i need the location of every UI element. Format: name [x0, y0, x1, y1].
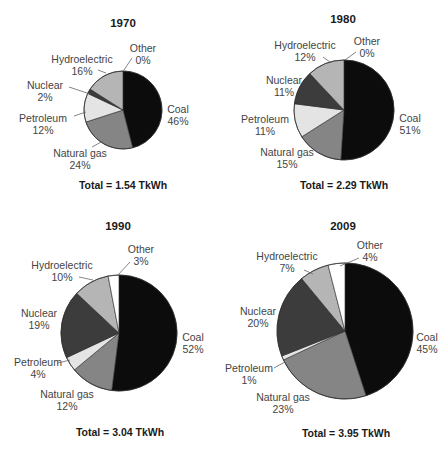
leader-line	[117, 262, 130, 276]
slice-coal	[112, 275, 177, 391]
label-nuclear: Nuclear19%	[21, 307, 58, 331]
label-natural-gas: Natural gas15%	[260, 146, 314, 170]
label-petroleum: Petroleum11%	[241, 113, 289, 137]
label-coal: Coal46%	[167, 103, 189, 127]
slice-coal	[341, 60, 394, 160]
chart-area: 1970 Coal46%Natural gas24%Petroleum12%Nu…	[0, 0, 448, 449]
label-coal: Coal45%	[416, 331, 438, 355]
label-petroleum: Petroleum4%	[14, 356, 62, 380]
pie-slices	[84, 71, 162, 149]
label-coal: Coal51%	[399, 112, 421, 136]
pie-chart-1990: 1990 Coal52%Natural gas12%Petroleum4%Nuc…	[14, 220, 204, 438]
pie-chart-2009: 2009 Coal45%Natural gas23%Petroleum1%Nuc…	[225, 220, 438, 439]
leader-line	[124, 58, 132, 70]
chart-title: 1970	[110, 17, 136, 29]
leader-line	[323, 57, 330, 62]
label-other: Other4%	[357, 239, 384, 263]
label-petroleum: Petroleum1%	[225, 362, 273, 386]
label-hydroelectric: Hydroelectric10%	[31, 259, 92, 283]
pie-charts-grid: 1970 Coal46%Natural gas24%Petroleum12%Nu…	[0, 0, 448, 449]
total-label: Total = 3.95 TkWh	[302, 427, 390, 439]
chart-title: 2009	[330, 220, 356, 232]
label-natural-gas: Natural gas24%	[53, 147, 107, 171]
leader-line	[98, 70, 106, 73]
leader-line	[69, 87, 90, 94]
total-label: Total = 2.29 TkWh	[300, 179, 388, 191]
label-other: Other0%	[130, 42, 157, 66]
label-other: Other0%	[354, 35, 381, 59]
leader-line	[274, 362, 285, 368]
total-label: Total = 1.54 TkWh	[79, 179, 167, 191]
pie-slices	[61, 275, 177, 391]
leader-line	[79, 277, 93, 280]
label-natural-gas: Natural gas23%	[256, 391, 310, 415]
label-nuclear: Nuclear20%	[240, 305, 277, 329]
label-coal: Coal52%	[182, 331, 204, 355]
label-nuclear: Nuclear2%	[27, 79, 64, 103]
pie-chart-1970: 1970 Coal46%Natural gas24%Petroleum12%Nu…	[19, 17, 189, 191]
pie-slices	[294, 60, 394, 160]
label-natural-gas: Natural gas12%	[40, 388, 94, 412]
label-petroleum: Petroleum12%	[19, 112, 67, 136]
label-other: Other3%	[128, 243, 155, 267]
pie-slices	[277, 263, 413, 399]
chart-title: 1990	[105, 220, 131, 232]
label-hydroelectric: Hydroelectric7%	[256, 250, 317, 274]
pie-chart-1980: 1980 Coal51%Natural gas15%Petroleum11%Nu…	[241, 13, 421, 191]
leader-line	[345, 52, 356, 60]
chart-title: 1980	[330, 13, 356, 25]
label-hydroelectric: Hydroelectric16%	[51, 53, 112, 77]
total-label: Total = 3.04 TkWh	[76, 426, 164, 438]
